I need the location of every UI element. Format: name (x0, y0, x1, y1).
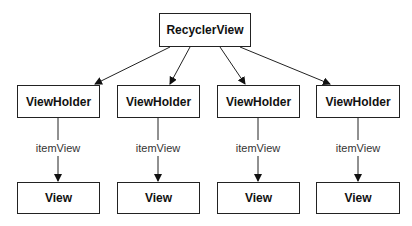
edge-root-holder-3 (220, 47, 245, 84)
edge-root-holder-2 (170, 47, 190, 84)
view-node-3: View (217, 182, 300, 214)
itemview-label-1: itemView (23, 142, 93, 154)
edge-root-holder-1 (95, 47, 170, 84)
recyclerview-node: RecyclerView (159, 13, 251, 47)
viewholder-node-4: ViewHolder (316, 85, 400, 118)
view-node-1: View (17, 182, 100, 214)
viewholder-node-3: ViewHolder (217, 85, 300, 118)
itemview-label-3: itemView (223, 142, 293, 154)
itemview-label-4: itemView (323, 142, 393, 154)
itemview-label-2: itemView (123, 142, 193, 154)
view-node-4: View (316, 182, 400, 214)
viewholder-node-2: ViewHolder (117, 85, 200, 118)
edge-root-holder-4 (240, 47, 330, 84)
viewholder-node-1: ViewHolder (17, 85, 100, 118)
view-node-2: View (117, 182, 200, 214)
